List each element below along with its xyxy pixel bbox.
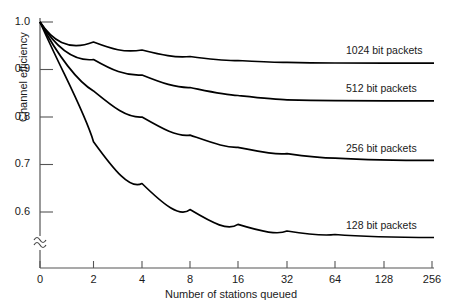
x-tick-label-8: 8 (173, 273, 207, 285)
x-tick-label-128: 128 (367, 273, 401, 285)
x-tick-label-2: 2 (77, 273, 111, 285)
x-tick-label-16: 16 (221, 273, 255, 285)
y-tick-label-1: 1.0 (4, 15, 30, 27)
y-tick-label-5: 0.6 (4, 205, 30, 217)
curve-label-256: 256 bit packets (346, 142, 417, 154)
curve-label-128: 128 bit packets (346, 219, 417, 231)
x-axis-title: Number of stations queued (165, 288, 297, 300)
chart-figure: 1.0 0.9 0.8 0.7 0.6 0 2 4 8 16 32 64 128… (0, 0, 450, 308)
y-axis-break-icon (34, 236, 46, 250)
x-tick-label-64: 64 (318, 273, 352, 285)
y-tick-label-4: 0.7 (4, 157, 30, 169)
x-tick-label-32: 32 (270, 273, 304, 285)
curve-1024 (40, 22, 434, 63)
x-tick-label-0: 0 (23, 273, 57, 285)
x-tick-label-4: 4 (125, 273, 159, 285)
curve-label-1024: 1024 bit packets (346, 44, 422, 56)
x-tick-marks (40, 261, 432, 268)
y-tick-marks (40, 22, 53, 212)
x-tick-label-256: 256 (415, 273, 449, 285)
curve-label-512: 512 bit packets (346, 82, 417, 94)
y-axis-title: Channel efficiency (17, 32, 29, 122)
